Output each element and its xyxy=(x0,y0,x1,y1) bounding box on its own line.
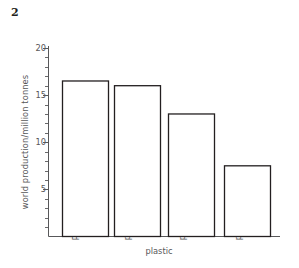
plot-area xyxy=(0,0,299,268)
bar-polythene xyxy=(115,86,161,237)
figure: 2 world production/million tonnes plasti… xyxy=(0,0,299,268)
bar-polypropene xyxy=(169,114,215,237)
bar-pvc xyxy=(63,81,109,237)
bar-series xyxy=(63,81,271,237)
bar-polystyrene xyxy=(225,166,271,237)
y-axis-ticks xyxy=(43,49,49,228)
